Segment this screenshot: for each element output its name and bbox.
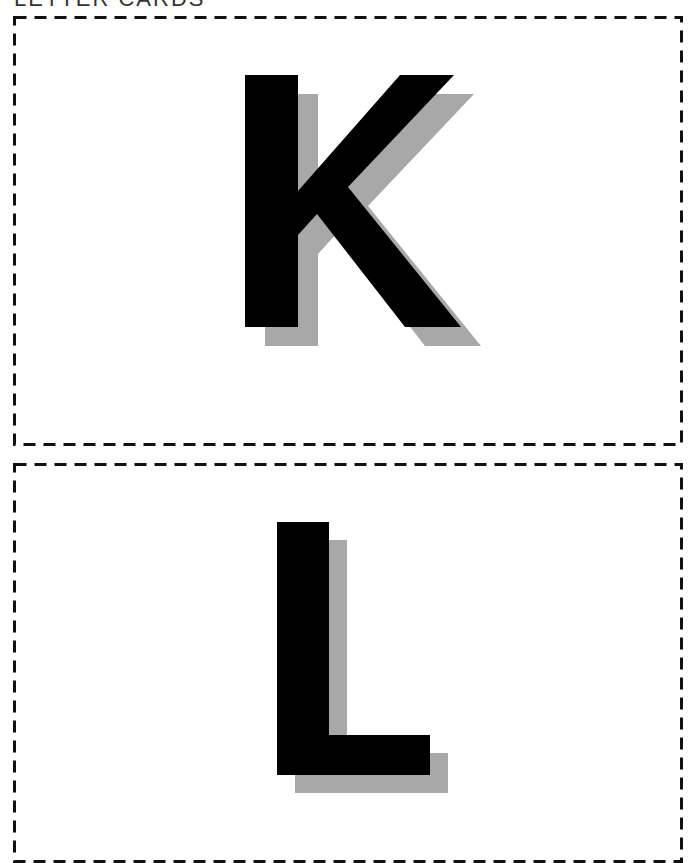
letter-k-glyph — [13, 16, 683, 446]
letter-l-glyph — [13, 463, 683, 863]
page-heading: LETTER CARDS — [14, 0, 205, 12]
letter-l: L — [13, 463, 683, 863]
letter-k: K — [13, 16, 683, 446]
letter-card-l: L — [13, 463, 683, 863]
letter-card-k: K — [13, 16, 683, 446]
